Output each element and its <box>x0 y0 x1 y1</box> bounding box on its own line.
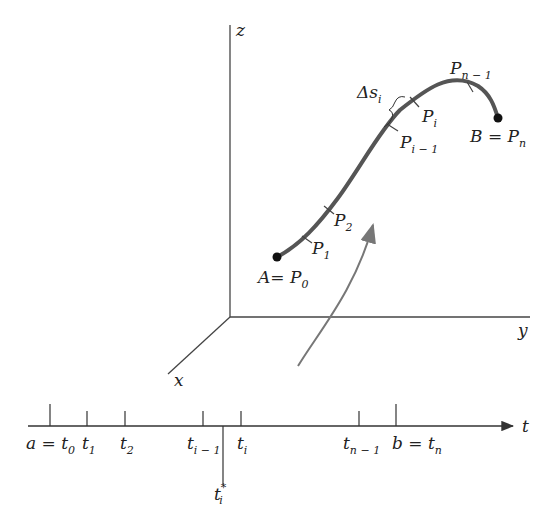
x-axis <box>168 317 230 374</box>
x-axis-label: x <box>174 370 184 390</box>
tick-t1: t1 <box>82 433 96 457</box>
t-axis-label: t <box>522 416 529 436</box>
label-Pi-1: Pi − 1 <box>399 132 438 156</box>
space-curve <box>277 80 498 257</box>
label-delta-s-i: Δsi <box>356 82 382 106</box>
tick-t0: a = t0 <box>26 433 75 457</box>
point-A-dot <box>273 253 282 262</box>
y-axis-label: y <box>517 320 528 340</box>
arc-length-diagram: z y x A= P0 P1 P2 Pi − 1 Pi Pn − 1 <box>0 0 559 525</box>
label-P1: P1 <box>311 238 330 262</box>
sample-point-ti-star: t*i <box>214 481 227 507</box>
tick-ti-1: ti − 1 <box>187 433 221 457</box>
point-B-dot <box>494 114 503 123</box>
z-axis-label: z <box>235 20 246 40</box>
tick-tn: b = tn <box>392 433 442 457</box>
curve-ticks <box>302 82 473 243</box>
label-Pn: B = Pn <box>469 126 526 150</box>
label-P0: A= P0 <box>256 267 308 291</box>
mapping-arrow <box>298 225 373 366</box>
parameter-axis: t a = t0 t1 t2 ti − 1 ti tn − 1 b = tn t… <box>26 404 529 507</box>
label-P2: P2 <box>333 210 352 234</box>
tick-tn-1: tn − 1 <box>343 433 380 457</box>
tick-t2: t2 <box>120 433 134 457</box>
tick-ti: ti <box>237 433 247 457</box>
label-Pi: Pi <box>421 106 437 130</box>
